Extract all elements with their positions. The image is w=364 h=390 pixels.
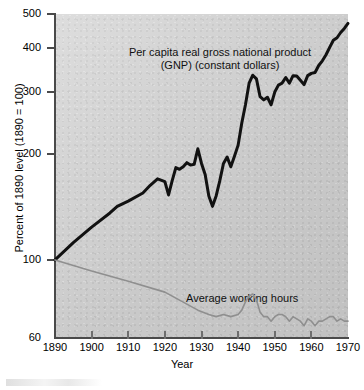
working-hours-line (55, 260, 348, 326)
gnp-line (55, 23, 348, 259)
figure: 50040030020010060 1890190019101920193019… (0, 0, 364, 390)
series-lines (0, 0, 364, 390)
page-edge-artifact (6, 379, 102, 386)
